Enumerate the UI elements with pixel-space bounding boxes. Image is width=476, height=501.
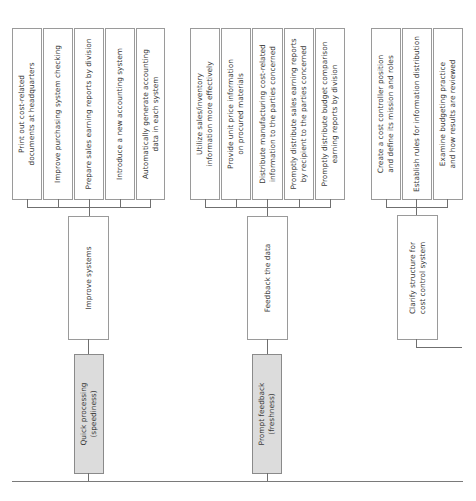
connector [236,199,237,207]
middle-box-improve-systems: Improve systems [68,216,109,340]
leaf-box-new-accounting-system: Introduce a new accounting system [105,28,135,200]
root-box-prompt-feedback: Prompt feedback (freshness) [252,354,282,474]
connector [27,199,28,207]
leaf-label: Distribute manufacturing cost-related in… [258,44,277,184]
connector [299,199,300,207]
connector [58,199,59,207]
leaf-label: Utilize sales/inventory information more… [195,61,214,166]
leaf-box-utilize-sales-inventory: Utilize sales/inventory information more… [190,28,220,200]
baseline [12,481,463,482]
middle-label: Clarify structure for cost control syste… [408,241,427,313]
leaf-label: Print out cost-related documents at head… [17,63,36,166]
leaf-label: Promptly distribute budget comparison ea… [320,42,339,187]
connector [205,199,206,207]
leaf-label: Provide unit price information on procur… [226,59,245,169]
connector [330,199,331,207]
connector-bar [416,347,462,348]
connector [267,473,268,481]
middle-box-clarify-structure: Clarify structure for cost control syste… [397,215,438,340]
leaf-label: Establish rules for information distribu… [412,36,422,192]
connector [416,339,417,347]
connector [88,473,89,481]
leaf-box-print-cost-documents: Print out cost-related documents at head… [12,28,42,200]
connector-bar [386,207,448,208]
middle-label: Improve systems [84,246,94,309]
leaf-box-examine-budgeting: Examine budgeting practice and how resul… [433,28,463,200]
leaf-box-prepare-sales-reports: Prepare sales earning reports by divisio… [74,28,104,200]
leaf-box-create-cost-controller: Create a cost controller position and de… [371,28,401,200]
connector [386,199,387,207]
connector [267,339,268,354]
root-label: Quick processing (speediness) [79,382,98,445]
leaf-label: Promptly distribute sales earning report… [289,38,308,189]
connector [120,199,121,207]
leaf-box-distribute-manufacturing-cost: Distribute manufacturing cost-related in… [252,28,283,200]
leaf-box-auto-generate-accounting: Automatically generate accounting data i… [136,28,165,200]
connector-bar [205,207,331,208]
leaf-box-establish-distribution-rules: Establish rules for information distribu… [402,28,432,200]
leaf-label: Create a cost controller position and de… [376,55,395,173]
leaf-box-distribute-sales-reports: Promptly distribute sales earning report… [284,28,314,200]
root-label: Prompt feedback (freshness) [257,383,276,446]
leaf-label: Improve purchasing system checking [53,45,63,183]
leaf-label: Automatically generate accounting data i… [141,49,160,179]
connector-bar [27,207,151,208]
connector [88,339,89,354]
connector [447,199,448,207]
leaf-box-distribute-budget-comparison: Promptly distribute budget comparison ea… [315,28,345,200]
middle-box-feedback-data: Feedback the data [247,216,288,340]
leaf-box-provide-unit-price: Provide unit price information on procur… [221,28,251,200]
leaf-box-improve-purchasing: Improve purchasing system checking [43,28,73,200]
leaf-label: Prepare sales earning reports by divisio… [84,39,94,190]
connector [150,199,151,207]
middle-label: Feedback the data [263,244,273,313]
root-box-quick-processing: Quick processing (speediness) [74,354,104,474]
leaf-label: Examine budgeting practice and how resul… [438,60,457,169]
leaf-label: Introduce a new accounting system [115,48,125,180]
